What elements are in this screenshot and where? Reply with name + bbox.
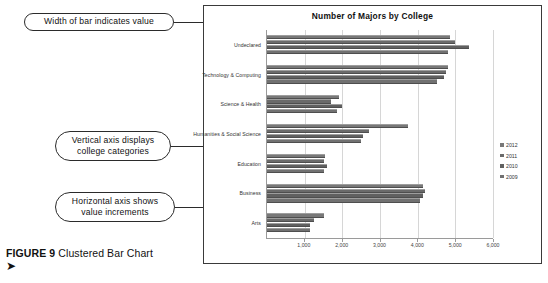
figure-caption-text: Clustered Bar Chart <box>58 247 153 259</box>
annotation-horizontal-axis-line1: Horizontal axis shows <box>72 196 158 206</box>
tick-label: 1,000 <box>297 242 310 248</box>
category-axis: UndeclaredTechnology & ComputingScience … <box>208 30 263 238</box>
legend-swatch-icon <box>500 164 504 168</box>
bar <box>267 75 444 79</box>
annotation-vertical-axis: Vertical axis displays college categorie… <box>55 131 171 161</box>
figure-label: FIGURE 9 <box>6 247 55 259</box>
bar <box>267 104 342 108</box>
value-axis: 1,0002,0003,0004,0005,0006,000 <box>266 238 493 255</box>
legend-swatch-icon <box>500 154 504 158</box>
bar-groups <box>267 30 493 238</box>
legend-item: 2012 <box>500 142 540 148</box>
bar <box>267 45 469 49</box>
bar <box>267 124 408 128</box>
bar <box>267 184 423 188</box>
annotation-horizontal-axis-text: Horizontal axis shows value increments <box>72 196 158 219</box>
annotation-width-of-bar: Width of bar indicates value <box>24 13 174 31</box>
bar <box>267 228 310 232</box>
annotation-width-of-bar-text: Width of bar indicates value <box>44 16 154 27</box>
figure-arrow-icon: ➤ <box>6 260 16 272</box>
legend-item: 2011 <box>500 153 540 159</box>
bar <box>267 40 455 44</box>
bar <box>267 193 423 197</box>
bar <box>267 95 339 99</box>
category-label: Arts <box>208 208 263 238</box>
bar-group <box>267 60 493 90</box>
bar <box>267 218 314 222</box>
legend-item: 2009 <box>500 174 540 180</box>
bar-group <box>267 30 493 60</box>
bar-group <box>267 119 493 149</box>
plot-area <box>266 30 493 238</box>
category-label: Undeclared <box>208 30 263 60</box>
bar <box>267 65 448 69</box>
bar <box>267 159 324 163</box>
bar-group <box>267 89 493 119</box>
legend-label: 2011 <box>506 153 517 159</box>
legend-swatch-icon <box>500 143 504 147</box>
annotation-vertical-axis-line2: college categories <box>77 146 149 156</box>
legend-label: 2010 <box>506 163 518 169</box>
tick-label: 2,000 <box>335 242 348 248</box>
bar <box>267 129 369 133</box>
chart-frame: Number of Majors by College UndeclaredTe… <box>203 5 542 264</box>
chart-body: UndeclaredTechnology & ComputingScience … <box>208 26 539 259</box>
legend-item: 2010 <box>500 163 540 169</box>
bar <box>267 189 425 193</box>
annotation-vertical-axis-line1: Vertical axis displays <box>72 135 155 145</box>
bar <box>267 99 331 103</box>
gridline <box>493 30 494 238</box>
tick-label: 3,000 <box>373 242 386 248</box>
legend-label: 2012 <box>506 142 518 148</box>
bar <box>267 198 420 202</box>
chart-legend: 2012201120102009 <box>500 142 540 180</box>
bar-group <box>267 208 493 238</box>
legend-label: 2009 <box>506 174 518 180</box>
bar <box>267 164 327 168</box>
bar <box>267 169 324 173</box>
category-label: Science & Health <box>208 89 263 119</box>
tick-label: 4,000 <box>411 242 424 248</box>
annotation-vertical-axis-text: Vertical axis displays college categorie… <box>72 135 155 158</box>
bar <box>267 223 310 227</box>
category-label: Business <box>208 179 263 209</box>
bar <box>267 79 437 83</box>
bar <box>267 154 325 158</box>
bar-group <box>267 179 493 209</box>
bar-group <box>267 149 493 179</box>
chart-title: Number of Majors by College <box>204 11 541 21</box>
category-label: Technology & Computing <box>208 60 263 90</box>
bar <box>267 139 361 143</box>
bar <box>267 109 337 113</box>
bar <box>267 50 448 54</box>
category-label: Education <box>208 149 263 179</box>
tick-label: 6,000 <box>487 242 500 248</box>
bar <box>267 70 446 74</box>
bar <box>267 213 324 217</box>
tick-label: 5,000 <box>449 242 462 248</box>
legend-swatch-icon <box>500 175 504 179</box>
annotation-horizontal-axis-line2: value increments <box>81 207 148 217</box>
bar <box>267 134 363 138</box>
annotation-horizontal-axis: Horizontal axis shows value increments <box>55 192 175 222</box>
bar <box>267 35 450 39</box>
category-label: Humanities & Social Science <box>208 119 263 149</box>
figure-caption: FIGURE 9 Clustered Bar Chart <box>6 247 153 259</box>
